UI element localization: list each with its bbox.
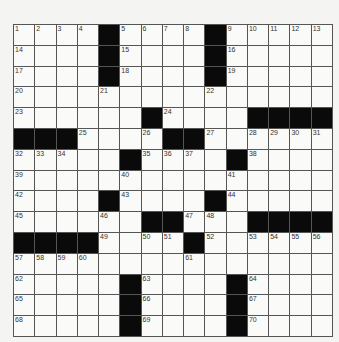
grid-cell[interactable] (269, 254, 289, 274)
grid-cell[interactable] (205, 150, 225, 170)
grid-cell[interactable] (163, 254, 183, 274)
grid-cell[interactable] (290, 171, 310, 191)
grid-cell[interactable] (99, 129, 119, 149)
grid-cell[interactable]: 41 (227, 171, 247, 191)
grid-cell[interactable]: 48 (205, 212, 225, 232)
grid-cell[interactable] (35, 212, 55, 232)
grid-cell[interactable] (205, 275, 225, 295)
grid-cell[interactable]: 15 (120, 46, 140, 66)
grid-cell[interactable] (163, 46, 183, 66)
grid-cell[interactable] (78, 316, 98, 336)
grid-cell[interactable] (312, 191, 332, 211)
grid-cell[interactable] (290, 191, 310, 211)
grid-cell[interactable] (248, 191, 268, 211)
grid-cell[interactable] (163, 275, 183, 295)
grid-cell[interactable]: 2 (35, 25, 55, 45)
grid-cell[interactable]: 3 (57, 25, 77, 45)
grid-cell[interactable] (269, 150, 289, 170)
grid-cell[interactable]: 61 (184, 254, 204, 274)
grid-cell[interactable]: 69 (142, 316, 162, 336)
grid-cell[interactable] (120, 254, 140, 274)
grid-cell[interactable]: 11 (269, 25, 289, 45)
grid-cell[interactable] (248, 254, 268, 274)
grid-cell[interactable]: 65 (14, 295, 34, 315)
grid-cell[interactable]: 63 (142, 275, 162, 295)
grid-cell[interactable] (227, 108, 247, 128)
grid-cell[interactable] (184, 67, 204, 87)
grid-cell[interactable] (78, 212, 98, 232)
grid-cell[interactable] (142, 191, 162, 211)
grid-cell[interactable]: 24 (163, 108, 183, 128)
grid-cell[interactable]: 52 (205, 233, 225, 253)
grid-cell[interactable] (269, 46, 289, 66)
grid-cell[interactable]: 25 (78, 129, 98, 149)
grid-cell[interactable]: 18 (120, 67, 140, 87)
grid-cell[interactable]: 51 (163, 233, 183, 253)
grid-cell[interactable] (184, 171, 204, 191)
grid-cell[interactable] (78, 150, 98, 170)
grid-cell[interactable]: 50 (142, 233, 162, 253)
grid-cell[interactable] (57, 295, 77, 315)
grid-cell[interactable] (269, 316, 289, 336)
grid-cell[interactable] (227, 233, 247, 253)
grid-cell[interactable] (312, 316, 332, 336)
grid-cell[interactable]: 49 (99, 233, 119, 253)
grid-cell[interactable] (269, 67, 289, 87)
grid-cell[interactable]: 53 (248, 233, 268, 253)
grid-cell[interactable] (312, 150, 332, 170)
grid-cell[interactable] (269, 171, 289, 191)
grid-cell[interactable]: 31 (312, 129, 332, 149)
grid-cell[interactable] (35, 316, 55, 336)
grid-cell[interactable] (290, 46, 310, 66)
grid-cell[interactable] (269, 87, 289, 107)
grid-cell[interactable]: 59 (57, 254, 77, 274)
grid-cell[interactable]: 43 (120, 191, 140, 211)
grid-cell[interactable] (248, 46, 268, 66)
grid-cell[interactable]: 68 (14, 316, 34, 336)
grid-cell[interactable]: 9 (227, 25, 247, 45)
grid-cell[interactable] (99, 171, 119, 191)
grid-cell[interactable]: 23 (14, 108, 34, 128)
grid-cell[interactable] (312, 46, 332, 66)
grid-cell[interactable] (120, 233, 140, 253)
grid-cell[interactable] (142, 254, 162, 274)
grid-cell[interactable] (227, 87, 247, 107)
grid-cell[interactable] (205, 108, 225, 128)
grid-cell[interactable]: 67 (248, 295, 268, 315)
grid-cell[interactable] (184, 87, 204, 107)
grid-cell[interactable] (248, 171, 268, 191)
grid-cell[interactable] (78, 87, 98, 107)
grid-cell[interactable] (78, 191, 98, 211)
grid-cell[interactable] (78, 108, 98, 128)
grid-cell[interactable]: 5 (120, 25, 140, 45)
grid-cell[interactable] (57, 212, 77, 232)
grid-cell[interactable] (35, 67, 55, 87)
grid-cell[interactable] (290, 67, 310, 87)
grid-cell[interactable] (57, 87, 77, 107)
grid-cell[interactable]: 60 (78, 254, 98, 274)
grid-cell[interactable] (184, 316, 204, 336)
grid-cell[interactable] (205, 171, 225, 191)
grid-cell[interactable]: 44 (227, 191, 247, 211)
grid-cell[interactable]: 66 (142, 295, 162, 315)
grid-cell[interactable] (57, 275, 77, 295)
grid-cell[interactable] (57, 171, 77, 191)
grid-cell[interactable] (205, 316, 225, 336)
grid-cell[interactable]: 16 (227, 46, 247, 66)
grid-cell[interactable] (205, 254, 225, 274)
grid-cell[interactable] (57, 191, 77, 211)
grid-cell[interactable] (142, 87, 162, 107)
grid-cell[interactable] (163, 87, 183, 107)
grid-cell[interactable]: 26 (142, 129, 162, 149)
grid-cell[interactable]: 4 (78, 25, 98, 45)
grid-cell[interactable]: 62 (14, 275, 34, 295)
grid-cell[interactable]: 6 (142, 25, 162, 45)
grid-cell[interactable] (35, 87, 55, 107)
grid-cell[interactable]: 30 (290, 129, 310, 149)
grid-cell[interactable] (312, 171, 332, 191)
grid-cell[interactable]: 21 (99, 87, 119, 107)
grid-cell[interactable] (184, 275, 204, 295)
grid-cell[interactable]: 57 (14, 254, 34, 274)
grid-cell[interactable]: 14 (14, 46, 34, 66)
grid-cell[interactable]: 1 (14, 25, 34, 45)
